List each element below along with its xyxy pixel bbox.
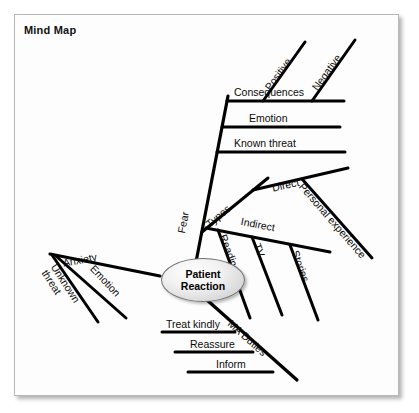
center-node-patient-reaction[interactable]: Patient Reaction	[161, 258, 245, 302]
page-title: Mind Map	[24, 24, 76, 36]
label-treat-kindly[interactable]: Treat kindly	[166, 319, 220, 330]
label-inform[interactable]: Inform	[216, 359, 246, 370]
mind-map-canvas: Mind Map	[0, 0, 419, 413]
label-reassure[interactable]: Reassure	[190, 339, 235, 350]
center-node-label: Patient Reaction	[181, 268, 225, 293]
center-node-label-line1: Patient	[185, 268, 220, 280]
label-emotion-top[interactable]: Emotion	[249, 113, 288, 124]
mind-map-branch-lines	[0, 0, 419, 413]
label-known-threat[interactable]: Known threat	[234, 138, 296, 149]
center-node-label-line2: Reaction	[181, 280, 225, 292]
